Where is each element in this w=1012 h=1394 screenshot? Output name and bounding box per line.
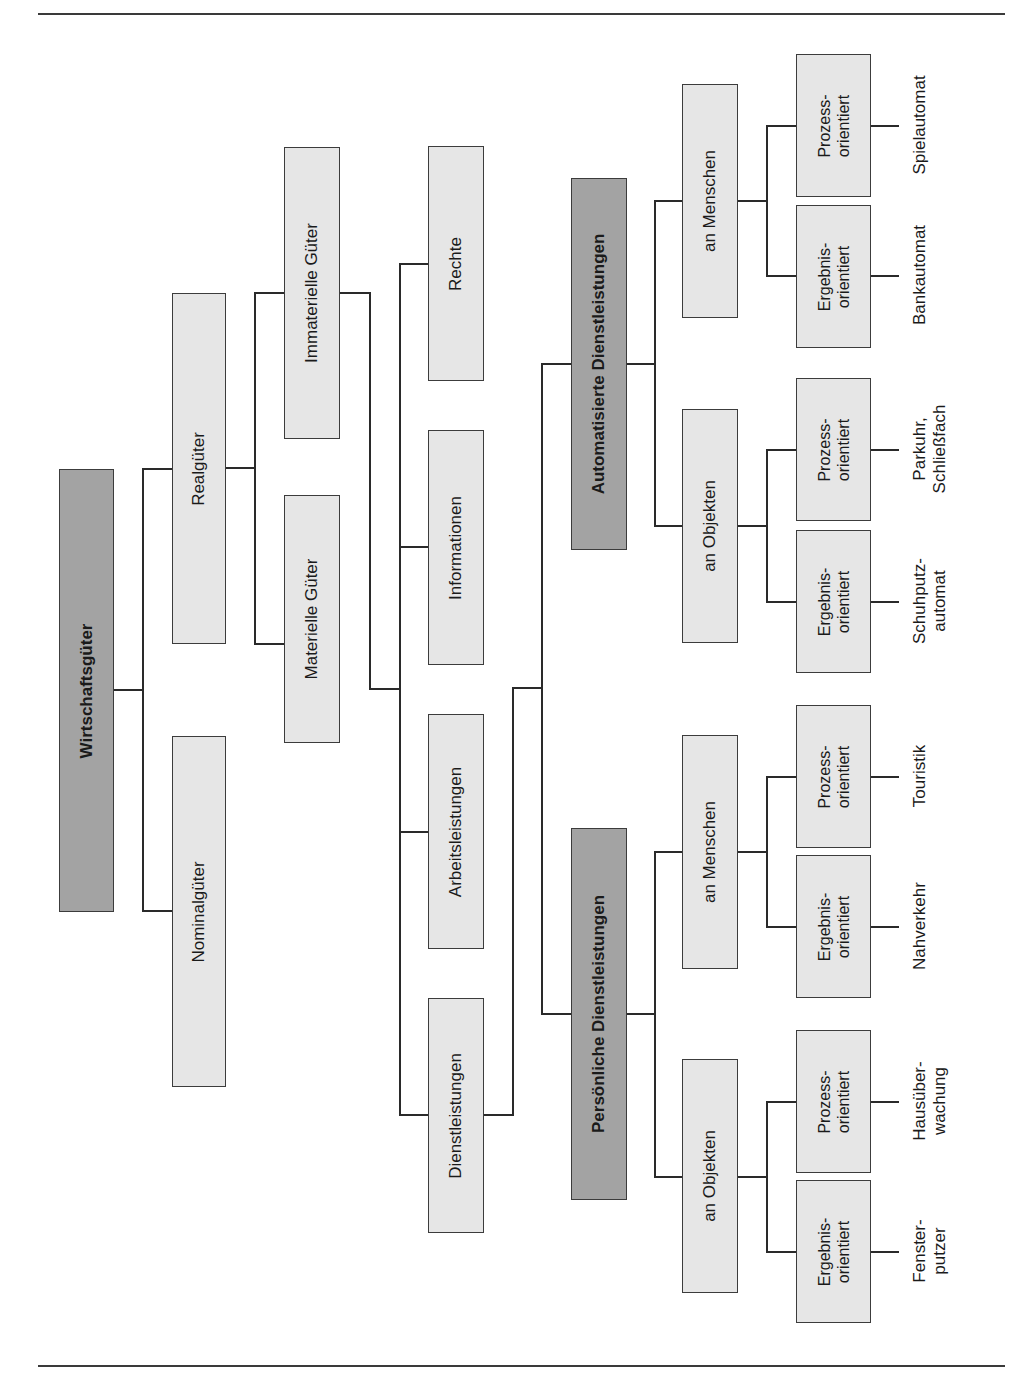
connector <box>340 292 370 294</box>
node-immaterielle-gueter: Immaterielle Güter <box>284 147 340 439</box>
connector <box>738 525 767 527</box>
node-label: Rechte <box>446 237 466 291</box>
node-label: Immaterielle Güter <box>302 223 322 363</box>
node-label: Ergebnis- orientiert <box>815 567 853 635</box>
node-label: Prozess- orientiert <box>815 418 853 481</box>
node-label: Persönliche Dienstleistungen <box>589 895 609 1133</box>
connector <box>225 467 255 469</box>
node-dienstleistungen: Dienstleistungen <box>428 998 484 1233</box>
header-rule <box>38 13 1005 15</box>
connector <box>870 776 899 778</box>
connector <box>870 601 899 603</box>
node-label: Informationen <box>446 496 466 600</box>
node-rechte: Rechte <box>428 146 484 381</box>
node-label: an Objekten <box>700 1130 720 1222</box>
leaf-parkuhr-schliessfach: Parkuhr, Schließfach <box>910 405 950 494</box>
connector <box>254 643 285 645</box>
node-prozess-orientiert: Prozess- orientiert <box>796 54 871 197</box>
node-label: Prozess- orientiert <box>815 1070 853 1133</box>
node-persoenliche-dienstleistungen: Persönliche Dienstleistungen <box>571 828 627 1200</box>
connector <box>541 1013 572 1015</box>
connector <box>870 449 899 451</box>
node-label: Ergebnis- orientiert <box>815 892 853 960</box>
connector <box>399 1114 429 1116</box>
node-label: Ergebnis- orientiert <box>815 1217 853 1285</box>
node-label: Ergebnis- orientiert <box>815 242 853 310</box>
connector <box>766 1101 797 1103</box>
connector <box>654 200 656 527</box>
connector <box>142 468 144 912</box>
node-pers-an-menschen: an Menschen <box>682 735 738 969</box>
node-nominalgueter: Nominalgüter <box>172 736 226 1087</box>
node-label: an Menschen <box>700 150 720 252</box>
node-label: Nominalgüter <box>189 861 209 962</box>
connector <box>870 1101 899 1103</box>
node-prozess-orientiert: Prozess- orientiert <box>796 705 871 848</box>
connector <box>399 831 429 833</box>
node-informationen: Informationen <box>428 430 484 665</box>
connector <box>766 926 797 928</box>
node-prozess-orientiert: Prozess- orientiert <box>796 1030 871 1173</box>
leaf-touristik: Touristik <box>910 745 930 807</box>
connector <box>654 1176 683 1178</box>
connector <box>541 363 543 1015</box>
leaf-nahverkehr: Nahverkehr <box>910 882 930 970</box>
node-prozess-orientiert: Prozess- orientiert <box>796 378 871 521</box>
node-auto-an-objekten: an Objekten <box>682 409 738 643</box>
node-label: Dienstleistungen <box>446 1053 466 1179</box>
connector <box>654 200 683 202</box>
leaf-bankautomat: Bankautomat <box>910 225 930 325</box>
node-label: Prozess- orientiert <box>815 94 853 157</box>
connector <box>766 275 797 277</box>
connector <box>766 601 797 603</box>
node-auto-an-menschen: an Menschen <box>682 84 738 318</box>
connector <box>766 776 797 778</box>
connector <box>738 200 767 202</box>
connector <box>766 125 768 277</box>
connector <box>399 263 401 1116</box>
connector <box>626 1013 655 1015</box>
node-ergebnis-orientiert: Ergebnis- orientiert <box>796 530 871 673</box>
leaf-hausueberwachung: Hausüber- wachung <box>910 1061 950 1140</box>
connector <box>870 125 899 127</box>
node-label: Materielle Güter <box>302 559 322 680</box>
connector <box>870 926 899 928</box>
node-label: an Objekten <box>700 480 720 572</box>
connector <box>541 363 572 365</box>
node-ergebnis-orientiert: Ergebnis- orientiert <box>796 855 871 998</box>
connector <box>766 776 768 928</box>
leaf-schuhputzautomat: Schuhputz- automat <box>910 558 950 644</box>
node-automatisierte-dienstleistungen: Automatisierte Dienstleistungen <box>571 178 627 550</box>
node-label: Prozess- orientiert <box>815 745 853 808</box>
connector <box>766 1251 797 1253</box>
connector <box>654 851 656 1178</box>
connector <box>766 449 768 603</box>
leaf-fensterputzer: Fenster- putzer <box>910 1219 950 1282</box>
leaf-spielautomat: Spielautomat <box>910 75 930 174</box>
connector <box>870 1251 899 1253</box>
node-label: Automatisierte Dienstleistungen <box>589 234 609 495</box>
node-label: Realgüter <box>189 432 209 506</box>
connector <box>399 546 429 548</box>
connector <box>766 125 797 127</box>
footer-rule <box>38 1365 1005 1367</box>
node-label: Arbeitsleistungen <box>446 766 466 896</box>
connector <box>113 689 143 691</box>
connector <box>399 263 429 265</box>
connector <box>766 449 797 451</box>
node-arbeitsleistungen: Arbeitsleistungen <box>428 714 484 949</box>
node-realgueter: Realgüter <box>172 293 226 644</box>
connector <box>142 468 173 470</box>
connector <box>654 851 683 853</box>
connector <box>483 1114 513 1116</box>
connector <box>654 525 683 527</box>
node-ergebnis-orientiert: Ergebnis- orientiert <box>796 1180 871 1323</box>
connector <box>766 1101 768 1253</box>
node-ergebnis-orientiert: Ergebnis- orientiert <box>796 205 871 348</box>
connector <box>369 688 400 690</box>
connector <box>254 292 285 294</box>
connector <box>142 910 173 912</box>
connector <box>738 1176 767 1178</box>
node-pers-an-objekten: an Objekten <box>682 1059 738 1293</box>
node-label: Wirtschaftsgüter <box>77 623 97 758</box>
